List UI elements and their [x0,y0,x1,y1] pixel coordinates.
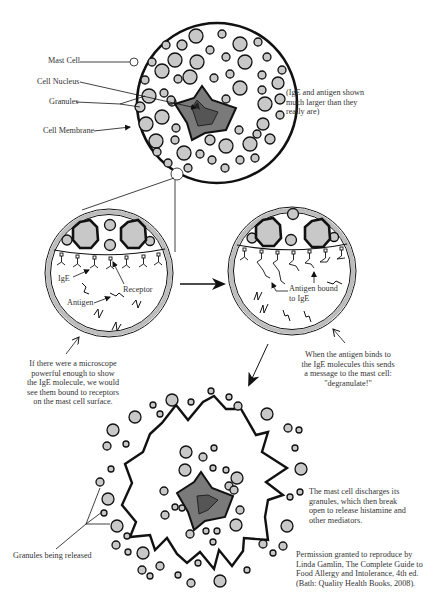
caption-line: The mast cell discharges its [309,487,406,497]
credit-line: (Bath: Quality Health Books, 2008). [296,579,423,589]
caption-right: When the antigen binds to the IgE molecu… [293,350,403,388]
zoom-circle-right [228,207,356,343]
caption-line: other mediators. [309,516,406,526]
note-scale: (IgE and antigen shown much larger than … [286,88,364,117]
label-cell-nucleus: Cell Nucleus [37,77,80,87]
label-receptor: Receptor [123,285,153,295]
label-mast-cell: Mast Cell [48,56,80,66]
caption-arrow-right [333,329,345,343]
label-antigen-bound: Antigen bound to IgE [289,284,338,303]
credit-line: Linda Gamlin, The Complete Guide to [296,560,423,570]
caption-line: the IgE molecules this sends [293,360,403,370]
label-granules-released: Granules being released [13,551,92,561]
note-line: really are) [286,107,364,117]
note-line: much larger than they [286,98,364,108]
caption-line: "degranulate!" [293,379,403,389]
label-antigen: Antigen [67,298,93,308]
credit: Permission granted to reproduce by Linda… [296,550,423,588]
degranulating-cell [96,388,307,587]
arrow-to-degranulation [249,344,268,385]
caption-line: If there were a microscope [18,359,128,369]
note-line: (IgE and antigen shown [286,88,364,98]
caption-line: on the mast cell surface. [18,397,128,407]
caption-line: powerful enough to show [18,369,128,379]
caption-discharge: The mast cell discharges its granules, w… [309,487,406,525]
credit-line: Permission granted to reproduce by [296,550,423,560]
caption-left: If there were a microscope powerful enou… [18,359,128,407]
label-ige: IgE [58,274,70,284]
label-granules: Granules [49,97,79,107]
credit-line: Food Allergy and Intolerance, 4th ed. [296,569,423,579]
label-cell-membrane: Cell Membrane [43,126,94,136]
caption-line: a message to the mast cell: [293,369,403,379]
caption-line: granules, which then break [309,497,406,507]
caption-arrow-left [66,337,79,354]
caption-line: open to release histamine and [309,506,406,516]
caption-line: the IgE molecule, we would [18,378,128,388]
top-mast-cell [130,23,297,183]
caption-line: see them bound to receptors [18,388,128,398]
label-line: Antigen bound [289,284,338,294]
label-line: to IgE [289,294,338,304]
caption-line: When the antigen binds to [293,350,403,360]
mast-cell-marker [130,58,138,66]
